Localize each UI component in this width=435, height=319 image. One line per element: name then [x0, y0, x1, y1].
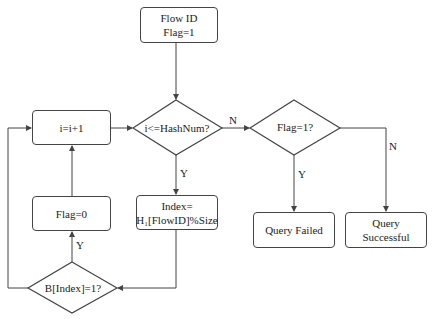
edge-label-hashnum-yes: Y — [180, 167, 188, 179]
node-query-successful-line1: Query — [372, 216, 400, 230]
node-compute-index-line1: Index= — [161, 199, 192, 213]
edge-label-flag-yes: Y — [298, 168, 306, 180]
node-check-hashnum-label: i<=HashNum? — [145, 122, 210, 135]
node-set-flag-zero: Flag=0 — [32, 196, 111, 231]
edge-bit-no-loop — [8, 128, 31, 288]
node-increment-label: i=i+1 — [59, 121, 83, 135]
node-query-failed-label: Query Failed — [265, 223, 323, 237]
node-check-bit-label: B[Index]=1? — [45, 282, 101, 295]
node-query-successful-line2: Successful — [362, 230, 409, 244]
edge-label-flag-no: N — [389, 140, 397, 152]
node-increment: i=i+1 — [32, 110, 111, 145]
edge-index-to-bit — [118, 230, 176, 288]
node-start-line1: Flow ID — [161, 11, 198, 25]
flowchart-connectors — [0, 0, 435, 319]
edge-label-bit-yes: Y — [76, 239, 84, 251]
node-compute-index: Index= H₁[FlowID]%Size — [136, 195, 218, 230]
node-query-successful: Query Successful — [345, 212, 427, 248]
node-start-line2: Flag=1 — [163, 25, 194, 39]
node-compute-index-line2: H₁[FlowID]%Size — [136, 213, 217, 227]
node-set-flag-zero-label: Flag=0 — [56, 207, 87, 221]
node-query-failed: Query Failed — [253, 212, 335, 248]
edge-flag-no — [340, 128, 386, 211]
edge-label-hashnum-no: N — [229, 114, 237, 126]
node-start: Flow ID Flag=1 — [140, 7, 218, 43]
node-check-flag-label: Flag=1? — [277, 121, 313, 134]
